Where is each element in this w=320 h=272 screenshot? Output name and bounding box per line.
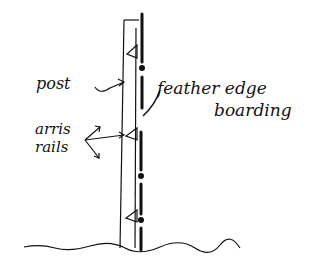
boarding-label: boarding <box>214 100 292 120</box>
post-arrow <box>95 82 124 91</box>
arris-label: arris <box>35 122 71 137</box>
feather-edge-boarding <box>140 14 144 250</box>
ground-line <box>24 239 240 252</box>
post-label: post <box>36 74 71 93</box>
rails-label: rails <box>35 138 68 156</box>
feather-edge-label: feather edge <box>157 78 267 98</box>
arris-arrows <box>85 126 124 158</box>
